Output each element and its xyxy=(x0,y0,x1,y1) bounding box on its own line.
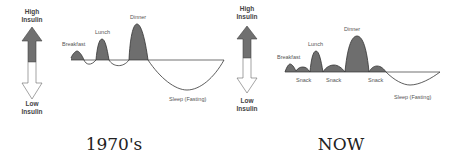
panel-1970s: High Insulin Low Insulin Breakfast Lunch… xyxy=(22,8,224,154)
low-insulin-label-line2: Insulin xyxy=(237,105,258,112)
low-insulin-label-line2: Insulin xyxy=(22,108,43,115)
arrow-down-icon xyxy=(22,62,42,99)
arrow-up-icon xyxy=(237,26,257,58)
high-insulin-label-line2: Insulin xyxy=(22,16,43,23)
snack-label-1: Snack xyxy=(296,77,312,83)
arrow-up-icon xyxy=(22,27,42,62)
low-insulin-label-line1: Low xyxy=(241,97,255,104)
snack-label-3: Snack xyxy=(368,77,384,83)
lunch-label: Lunch xyxy=(308,41,323,47)
breakfast-label: Breakfast xyxy=(277,54,301,60)
dinner-label: Dinner xyxy=(130,14,146,20)
high-insulin-label-line2: Insulin xyxy=(237,13,258,20)
caption-1970s: 1970's xyxy=(86,134,143,154)
insulin-curve-1970s xyxy=(71,24,224,90)
sleep-label: Sleep (Fasting) xyxy=(394,94,431,100)
snack-label-2: Snack xyxy=(326,77,342,83)
dinner-label: Dinner xyxy=(344,26,360,32)
breakfast-label: Breakfast xyxy=(62,41,86,47)
sleep-label: Sleep (Fasting) xyxy=(169,96,206,102)
low-insulin-label-line1: Low xyxy=(26,100,40,107)
dinner-peak xyxy=(345,36,369,72)
caption-now: NOW xyxy=(318,134,365,154)
lunch-label: Lunch xyxy=(95,29,110,35)
arrow-down-icon xyxy=(237,58,257,93)
insulin-comparison-diagram: High Insulin Low Insulin Breakfast Lunch… xyxy=(0,0,459,163)
panel-now: High Insulin Low Insulin Breakfast Lunch… xyxy=(237,5,440,154)
